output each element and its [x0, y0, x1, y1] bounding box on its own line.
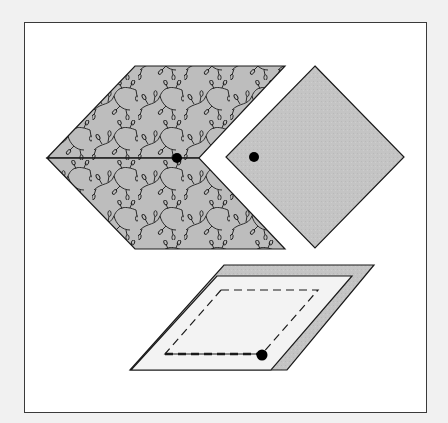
- chevron-match-dot: [172, 153, 182, 163]
- diagram-stage: [0, 0, 448, 423]
- square-match-dot: [249, 152, 259, 162]
- quilt-diagram: [0, 0, 448, 423]
- template-match-dot: [257, 350, 268, 361]
